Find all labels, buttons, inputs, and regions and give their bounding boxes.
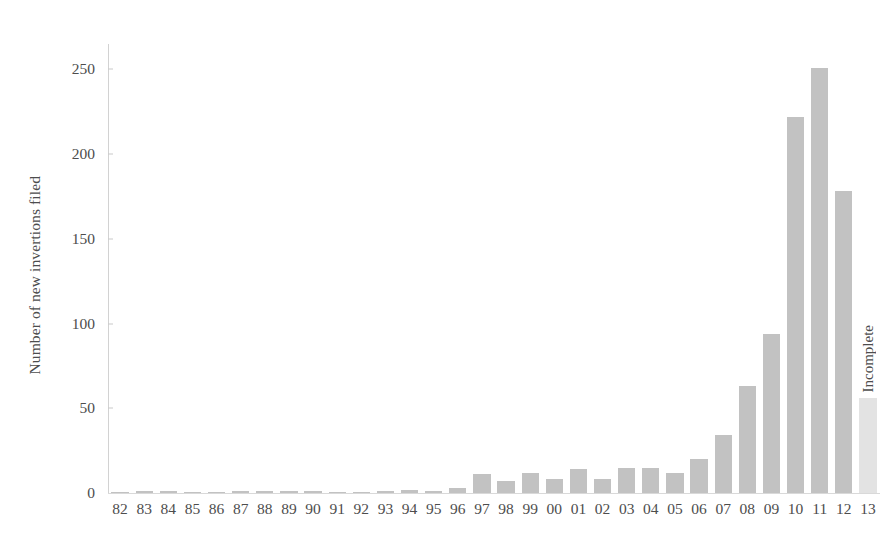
bar-89 — [280, 491, 297, 493]
bar-95 — [425, 491, 442, 493]
bar-01 — [570, 469, 587, 493]
bar-93 — [377, 491, 394, 493]
x-axis-tick-label-04: 04 — [643, 500, 659, 518]
x-axis-tick-label-85: 85 — [185, 500, 201, 518]
x-axis-tick-label-83: 83 — [136, 500, 152, 518]
bar-96 — [449, 488, 466, 493]
x-axis-tick-label-00: 00 — [547, 500, 563, 518]
bar-88 — [256, 491, 273, 493]
bar-94 — [401, 490, 418, 493]
bar-03 — [618, 468, 635, 493]
x-axis-tick-label-02: 02 — [595, 500, 611, 518]
x-axis-tick-label-86: 86 — [209, 500, 225, 518]
bar-91 — [329, 492, 346, 493]
x-axis-tick-label-05: 05 — [667, 500, 683, 518]
x-axis-tick-label-11: 11 — [812, 500, 827, 518]
y-axis-tick-label: 250 — [72, 60, 108, 78]
y-axis-tick-label: 150 — [72, 230, 108, 248]
x-axis-tick-label-01: 01 — [571, 500, 587, 518]
bar-10 — [787, 117, 804, 493]
x-axis-tick-labels: 8283848586878889909192939495969798990001… — [108, 500, 880, 530]
bar-87 — [232, 491, 249, 493]
y-axis-tick-label: 100 — [72, 315, 108, 333]
bar-02 — [594, 479, 611, 493]
bar-98 — [497, 481, 514, 493]
x-axis-tick-label-06: 06 — [691, 500, 707, 518]
y-axis-title-container: Number of new invertions filed — [18, 0, 52, 550]
bar-86 — [208, 492, 225, 493]
bar-series: Incomplete — [108, 44, 880, 493]
x-axis-tick-label-94: 94 — [402, 500, 418, 518]
bar-90 — [304, 491, 321, 493]
y-axis-tick-label: 50 — [80, 399, 109, 417]
x-axis-tick-label-12: 12 — [836, 500, 852, 518]
x-axis-tick-label-90: 90 — [305, 500, 321, 518]
x-axis-tick-label-97: 97 — [474, 500, 490, 518]
bar-annotation-incomplete: Incomplete — [860, 325, 877, 392]
bar-06 — [690, 459, 707, 493]
x-axis-tick-label-95: 95 — [426, 500, 442, 518]
y-axis-title: Number of new invertions filed — [26, 176, 44, 374]
x-axis-tick-label-91: 91 — [329, 500, 345, 518]
bar-85 — [184, 492, 201, 493]
bar-84 — [160, 491, 177, 493]
bar-13 — [859, 398, 876, 493]
y-axis-tick-label: 200 — [72, 145, 108, 163]
bar-97 — [473, 474, 490, 493]
x-axis-tick-label-87: 87 — [233, 500, 249, 518]
x-axis-tick-label-92: 92 — [354, 500, 370, 518]
bar-92 — [353, 492, 370, 493]
bar-83 — [136, 491, 153, 493]
x-axis-tick-label-10: 10 — [788, 500, 804, 518]
x-axis-tick-label-13: 13 — [860, 500, 876, 518]
bar-05 — [666, 473, 683, 493]
x-axis-tick-label-98: 98 — [498, 500, 514, 518]
bar-00 — [546, 479, 563, 493]
x-axis-line — [108, 493, 880, 494]
bar-12 — [835, 191, 852, 493]
x-axis-tick-label-82: 82 — [112, 500, 128, 518]
bar-11 — [811, 68, 828, 493]
x-axis-tick-label-03: 03 — [619, 500, 635, 518]
x-axis-tick-label-84: 84 — [161, 500, 177, 518]
x-axis-tick-label-93: 93 — [378, 500, 394, 518]
bar-82 — [111, 492, 128, 493]
x-axis-tick-label-07: 07 — [715, 500, 731, 518]
bar-07 — [715, 435, 732, 493]
x-axis-tick-label-89: 89 — [281, 500, 297, 518]
bar-04 — [642, 468, 659, 493]
bar-chart-figure: Number of new invertions filed 050100150… — [0, 0, 896, 550]
x-axis-tick-label-88: 88 — [257, 500, 273, 518]
bar-08 — [739, 386, 756, 493]
bar-99 — [522, 473, 539, 493]
x-axis-tick-label-99: 99 — [522, 500, 538, 518]
y-axis-tick-label: 0 — [87, 484, 108, 502]
x-axis-tick-label-96: 96 — [450, 500, 466, 518]
x-axis-tick-label-09: 09 — [764, 500, 780, 518]
bar-09 — [763, 334, 780, 493]
x-axis-tick-label-08: 08 — [740, 500, 756, 518]
